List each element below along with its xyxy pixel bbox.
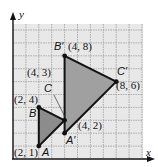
- vertex-label-a-prime: A′: [65, 134, 76, 146]
- vertex-label-c: C: [44, 82, 52, 94]
- vertex-label-c-prime: C′: [117, 65, 128, 77]
- vertex-label-a: A: [41, 146, 49, 158]
- x-axis-label: x: [145, 146, 151, 158]
- coordinate-plane-diagram: y x (4, 8) B′ (4, 3) C C′ (8, 6) (2, 4) …: [0, 0, 158, 167]
- vertex-label-b-prime: B′: [54, 40, 64, 52]
- coord-label-b: (2, 4): [14, 93, 38, 106]
- vertex-label-b: B: [29, 107, 36, 119]
- vertex-point: [36, 105, 41, 110]
- coord-label-a: (2, 1): [14, 146, 38, 159]
- coord-label-c: (4, 3): [27, 66, 51, 79]
- coord-label-c-prime: (8, 6): [116, 79, 140, 92]
- vertex-point: [62, 53, 67, 58]
- coord-label-b-prime: (4, 8): [68, 40, 92, 53]
- vertex-point: [62, 118, 67, 123]
- coord-label-a-prime: (4, 2): [78, 119, 102, 132]
- y-axis-arrow-icon: [10, 12, 16, 20]
- y-axis-label: y: [18, 8, 24, 20]
